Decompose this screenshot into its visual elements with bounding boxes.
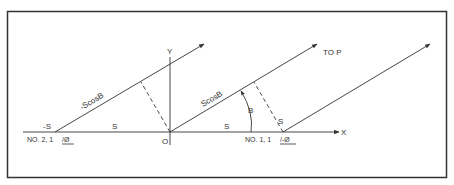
element-1-label: NO. 1, 1 bbox=[245, 136, 271, 143]
center-ray bbox=[170, 44, 317, 132]
angle-label: B bbox=[248, 106, 253, 115]
center-path-label: ScosB bbox=[199, 89, 223, 108]
right-perp-label: S bbox=[278, 117, 283, 126]
left-path-label: -ScosB bbox=[78, 91, 105, 112]
y-axis-label: Y bbox=[167, 47, 173, 56]
direction-label: TO P bbox=[323, 48, 342, 57]
frame-border bbox=[8, 12, 447, 178]
left-source-label: -S bbox=[43, 122, 51, 131]
left-ray bbox=[55, 44, 204, 132]
right-ray bbox=[283, 44, 430, 132]
x-axis-label: X bbox=[341, 128, 347, 137]
element-2-phase: /Ø bbox=[62, 136, 70, 143]
origin-label: O bbox=[162, 137, 168, 146]
left-perpendicular bbox=[141, 82, 170, 132]
array-geometry-diagram: Y X O -S S S S TO P B -ScosB ScosB NO. 2… bbox=[0, 0, 454, 185]
right-spacing-label: S bbox=[224, 122, 229, 131]
element-2-label: NO. 2, 1 bbox=[27, 136, 53, 143]
left-spacing-label: S bbox=[112, 122, 117, 131]
element-1-phase: /-Ø bbox=[280, 136, 290, 143]
